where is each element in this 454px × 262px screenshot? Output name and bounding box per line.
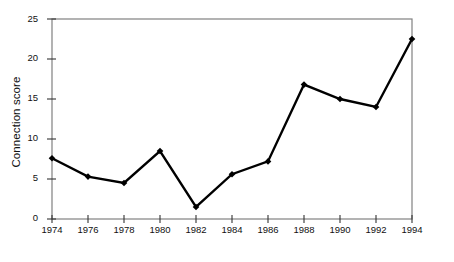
- axis-frame: [52, 19, 412, 219]
- line-chart: Connection score 25 20 15 10 5 0 1974 19…: [0, 0, 454, 262]
- plot-frame: [52, 19, 412, 219]
- plot-area: [0, 0, 454, 262]
- data-line: [52, 39, 412, 207]
- data-point-1990: [337, 96, 344, 103]
- data-markers: [49, 36, 416, 211]
